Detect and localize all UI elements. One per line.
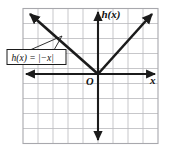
origin-label: O: [86, 76, 94, 87]
y-axis-label: h(x): [102, 8, 121, 21]
coordinate-plane-svg: h(x) = |−x| h(x) x O: [0, 0, 172, 162]
x-axis-label: x: [149, 74, 156, 86]
callout-equation-label: h(x) = |−x|: [12, 53, 54, 64]
graph-figure: h(x) = |−x| h(x) x O: [0, 0, 172, 162]
